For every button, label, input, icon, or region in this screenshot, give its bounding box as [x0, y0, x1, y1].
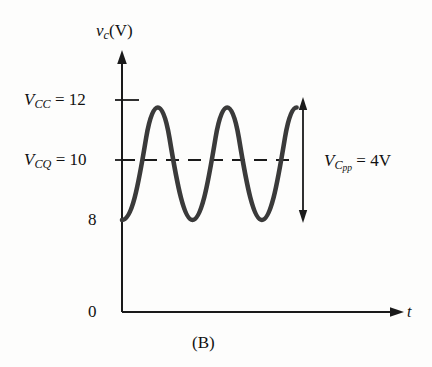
y-tick-label-8: 8: [88, 211, 97, 228]
y-tick-label-vcq: VCQ = 10: [24, 151, 86, 171]
y-tick-label-0: 0: [88, 303, 97, 320]
y-tick-label-vcc: VCC = 12: [24, 91, 86, 111]
vcpp-subscript-main: C: [334, 158, 342, 172]
vcpp-subscript: Cpp: [334, 158, 352, 172]
y-axis-label-unit: (V): [109, 21, 133, 40]
vcpp-symbol: V: [324, 151, 334, 170]
vcc-symbol: V: [24, 90, 34, 109]
y-axis-arrowhead: [117, 50, 127, 64]
vcc-equals: =: [55, 90, 65, 109]
y-axis-label-var: v: [96, 21, 104, 40]
figure-container: vc(V) VCC = 12 VCQ = 10 8 0 VCpp = 4V t …: [0, 0, 432, 367]
vcq-subscript: CQ: [34, 157, 51, 171]
vcc-value: 12: [69, 90, 86, 109]
x-axis-label: t: [407, 304, 411, 320]
pp-arrow-head-down: [299, 210, 307, 223]
vcpp-subsubscript: pp: [343, 163, 353, 174]
peak-to-peak-arrow: [299, 97, 307, 223]
y-axis: [117, 50, 127, 312]
y-axis-label: vc(V): [96, 22, 133, 42]
vcc-subscript: CC: [34, 97, 50, 111]
vcpp-equals: =: [356, 151, 366, 170]
vcq-value: 10: [69, 150, 86, 169]
waveform-plot: [0, 0, 432, 367]
vcq-symbol: V: [24, 150, 34, 169]
figure-caption: (B): [192, 334, 215, 351]
x-axis-arrowhead: [390, 307, 404, 317]
waveform-curve: [122, 108, 297, 221]
vcpp-value: 4V: [370, 151, 391, 170]
peak-to-peak-label: VCpp = 4V: [324, 152, 391, 173]
vcq-equals: =: [56, 150, 66, 169]
pp-arrow-head-up: [299, 97, 307, 110]
x-axis: [122, 307, 404, 317]
